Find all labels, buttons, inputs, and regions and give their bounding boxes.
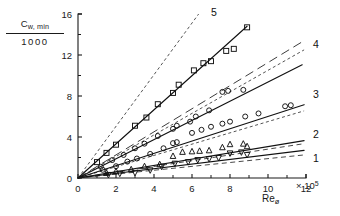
data-point-series-3: [283, 104, 288, 109]
series-line-1: [78, 150, 304, 178]
data-point-series-3: [220, 121, 225, 126]
series-line-3: [78, 105, 304, 178]
data-point-series-3: [288, 103, 293, 108]
data-point-series-2: [206, 147, 212, 153]
x-axis-tick-label: 8: [227, 183, 232, 194]
y-axis-tick-label: 8: [67, 91, 72, 102]
data-point-series-3: [228, 119, 233, 124]
x-axis-tick-label: 10: [263, 183, 274, 194]
data-point-series-3: [243, 114, 248, 119]
plot-area: 0481216024681012 54321: [0, 0, 340, 216]
y-axis-tick-label: 16: [61, 9, 72, 20]
y-axis-tick-label: 0: [67, 173, 72, 184]
curve-label-4: 4: [313, 38, 319, 50]
data-point-series-4: [241, 87, 246, 92]
data-point-series-2: [220, 144, 226, 150]
figure-root: Cw, min 1000 Reø × 105 0481216024681012 …: [0, 0, 340, 216]
data-point-series-3: [190, 130, 195, 135]
curve-label-1: 1: [313, 152, 319, 164]
curve-label-5: 5: [211, 6, 217, 18]
series-line-group: [78, 26, 304, 178]
data-point-series-3: [199, 127, 204, 132]
data-point-series-2: [197, 148, 203, 154]
data-point-series-2: [180, 149, 186, 155]
data-point-series-2: [170, 153, 176, 159]
x-axis-tick-label: 12: [301, 183, 312, 194]
data-point-series-3: [209, 124, 214, 129]
y-axis-tick-label: 12: [61, 50, 72, 61]
data-point-series-3: [256, 111, 261, 116]
x-axis-tick-label: 2: [113, 183, 118, 194]
curve-label-2: 2: [313, 128, 319, 140]
data-point-series-5: [231, 46, 236, 51]
data-point-series-5: [224, 48, 229, 53]
x-axis-tick-label: 6: [189, 183, 194, 194]
data-point-series-2: [241, 141, 247, 147]
y-axis-tick-label: 4: [67, 132, 72, 143]
x-axis-tick-label: 0: [75, 183, 80, 194]
data-point-series-4: [226, 88, 231, 93]
data-point-series-2: [142, 163, 148, 169]
curve-label-3: 3: [313, 88, 319, 100]
x-axis-tick-label: 4: [151, 183, 156, 194]
data-point-series-2: [227, 141, 233, 147]
data-point-series-2: [189, 148, 195, 154]
